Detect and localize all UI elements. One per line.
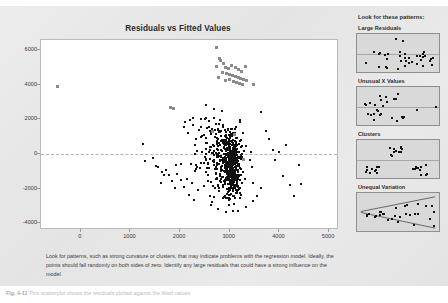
thumbnail-point xyxy=(386,58,388,60)
thumbnail-point xyxy=(399,216,401,218)
thumbnail-point xyxy=(432,57,434,59)
patterns-sidebar: Look for these patterns: Large Residuals… xyxy=(356,14,444,282)
pattern-panel-unequal-variation[interactable]: Unequal Variation xyxy=(356,184,444,232)
thumbnail-point xyxy=(387,219,389,221)
y-axis-tick-label: 4000 xyxy=(25,81,37,87)
chart-title: Residuals vs Fitted Values xyxy=(4,24,352,33)
thumbnail-point xyxy=(431,205,433,207)
pattern-panel-unusual-x-values[interactable]: Unusual X Values xyxy=(356,78,444,126)
pattern-thumbnail xyxy=(356,139,440,179)
thumbnail-point xyxy=(387,53,389,55)
thumbnail-point xyxy=(395,207,397,209)
thumbnail-point xyxy=(435,106,437,108)
pattern-panel-clusters[interactable]: Clusters xyxy=(356,131,444,179)
pattern-panel-large-residuals[interactable]: Large Residuals xyxy=(356,25,444,73)
thumbnail-point xyxy=(433,211,435,213)
thumbnail-point xyxy=(408,62,410,64)
thumbnail-point xyxy=(396,120,398,122)
x-axis-tick-label: 5000 xyxy=(322,233,334,239)
pattern-thumbnail xyxy=(356,86,440,126)
y-axis-tick-mark xyxy=(37,188,40,189)
pattern-label: Clusters xyxy=(358,131,444,137)
thumbnail-point xyxy=(400,151,402,153)
thumbnail-point xyxy=(391,117,393,119)
thumbnail-point xyxy=(420,59,422,61)
thumbnail-point xyxy=(385,66,387,68)
thumbnail-point xyxy=(431,64,433,66)
thumbnail-point xyxy=(403,116,405,118)
thumbnail-point xyxy=(397,68,399,70)
thumbnail-point xyxy=(420,174,422,176)
thumbnail-point xyxy=(416,63,418,65)
thumbnail-point xyxy=(366,214,368,216)
thumbnail-point xyxy=(399,51,401,53)
thumbnail-point xyxy=(425,164,427,166)
thumbnail-point xyxy=(378,166,380,168)
x-axis-tick-mark xyxy=(129,229,130,232)
figure-caption: Fig. 4-11 This scatterplot shows the res… xyxy=(6,290,436,296)
y-axis-tick-mark xyxy=(37,84,40,85)
thumbnail-reference-line xyxy=(357,107,439,108)
thumbnail-point xyxy=(425,174,427,176)
thumbnail-point xyxy=(424,55,426,57)
thumbnail-point xyxy=(378,53,380,55)
thumbnail-point xyxy=(408,57,410,59)
thumbnail-point xyxy=(400,60,402,62)
x-axis-tick-mark xyxy=(278,229,279,232)
thumbnail-point xyxy=(391,155,393,157)
thumbnail-reference-line xyxy=(357,160,439,161)
thumbnail-point xyxy=(422,65,424,67)
thumbnail-point xyxy=(409,214,411,216)
thumbnail-point xyxy=(382,105,384,107)
x-axis-tick-label: 2000 xyxy=(173,233,185,239)
thumbnail-point xyxy=(419,55,421,57)
pattern-thumbnail xyxy=(356,33,440,73)
x-axis-tick-label: 0 xyxy=(78,233,81,239)
thumbnail-point xyxy=(376,172,378,174)
thumbnail-point xyxy=(406,204,408,206)
x-axis-tick-label: 4000 xyxy=(272,233,284,239)
thumbnail-point xyxy=(365,104,367,106)
thumbnail-point xyxy=(367,113,369,115)
figure-caption-text: This scatterplot shows the residuals plo… xyxy=(29,290,192,296)
thumbnail-point xyxy=(411,61,413,63)
thumbnail-point xyxy=(389,147,391,149)
thumbnail-point xyxy=(366,166,368,168)
thumbnail-point xyxy=(414,168,416,170)
thumbnail-point xyxy=(425,205,427,207)
chart-note: Look for patterns, such as strong curvat… xyxy=(46,252,342,278)
y-axis-tick-label: -2000 xyxy=(23,185,37,191)
thumbnail-point xyxy=(400,147,402,149)
thumbnail-point xyxy=(374,170,376,172)
thumbnail-point xyxy=(375,215,377,217)
x-axis-tick-label: 3000 xyxy=(222,233,234,239)
thumbnail-point xyxy=(419,169,421,171)
thumbnail-point xyxy=(373,113,375,115)
pattern-thumbnail xyxy=(356,192,440,232)
thumbnail-point xyxy=(404,205,406,207)
thumbnail-point xyxy=(402,40,404,42)
y-axis-tick-mark xyxy=(37,153,40,154)
thumbnail-point xyxy=(404,53,406,55)
figure-root: Residuals vs Fitted Values -4000-2000020… xyxy=(0,0,448,303)
thumbnail-point xyxy=(379,214,381,216)
thumbnail-point xyxy=(394,215,396,217)
axis-layer: -4000-20000200040006000 0100020003000400… xyxy=(40,39,338,229)
thumbnail-point xyxy=(429,218,431,220)
pattern-label: Unusual X Values xyxy=(358,78,444,84)
thumbnail-point xyxy=(383,213,385,215)
thumbnail-point xyxy=(368,213,370,215)
thumbnail-point xyxy=(417,203,419,205)
thumbnail-point xyxy=(395,38,397,40)
x-axis-tick-mark xyxy=(328,229,329,232)
thumbnail-point xyxy=(384,54,386,56)
thumbnail-point xyxy=(423,51,425,53)
y-axis-tick-mark xyxy=(37,118,40,119)
y-axis-tick-label: -4000 xyxy=(23,219,37,225)
x-axis-tick-mark xyxy=(179,229,180,232)
thumbnail-point xyxy=(371,168,373,170)
thumbnail-point xyxy=(376,109,378,111)
patterns-sidebar-title: Look for these patterns: xyxy=(358,14,444,20)
thumbnail-point xyxy=(374,104,376,106)
thumbnail-point xyxy=(373,119,375,121)
